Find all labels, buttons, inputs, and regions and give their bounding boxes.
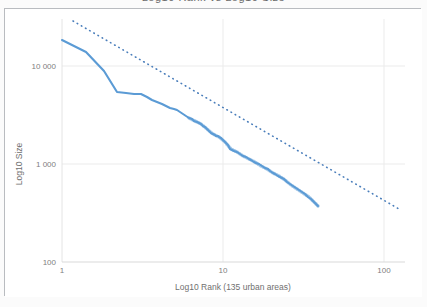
x-tick-label-1: 1 — [60, 266, 65, 275]
y-tick-label-100: 100 — [43, 258, 57, 267]
chart-background — [5, 9, 422, 297]
x-tick-label-10: 10 — [219, 266, 228, 275]
x-axis-title: Log10 Rank (135 urban areas) — [175, 282, 291, 292]
y-tick-label-10000: 10 000 — [32, 62, 57, 71]
x-tick-label-100: 100 — [377, 266, 391, 275]
chart-frame: 10 000 1 000 100 1 10 100 Log10 Rank (13… — [4, 8, 421, 296]
cut-off-chart-title: Log10 Rank vs Log10 Size — [0, 0, 427, 3]
screenshot-root: Log10 Rank vs Log10 Size — [0, 0, 427, 307]
y-tick-label-1000: 1 000 — [36, 160, 57, 169]
y-axis-title: Log10 Size — [14, 142, 24, 185]
log-log-rank-size-chart: 10 000 1 000 100 1 10 100 Log10 Rank (13… — [5, 9, 422, 297]
